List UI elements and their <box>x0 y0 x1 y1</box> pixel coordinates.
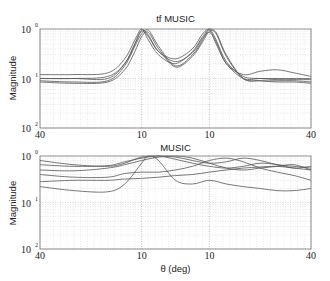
x-tick-label: 10 <box>137 129 147 140</box>
figure: tf MUSIC40101040100101102Magnitude MUSIC… <box>0 0 330 281</box>
x-tick-label: 10 <box>204 129 214 140</box>
x-tick-label: 40 <box>35 129 45 140</box>
y-tick-label: 10 <box>21 151 31 162</box>
y-tick-label: 10 <box>21 123 31 134</box>
y-tick-exponent: 0 <box>35 149 38 155</box>
x-tick-label: 10 <box>137 250 147 261</box>
y-axis-label: Magnitude <box>7 181 18 225</box>
y-tick-label: 10 <box>21 198 31 209</box>
x-tick-label: 40 <box>35 250 45 261</box>
x-axis-label: θ (deg) <box>160 263 190 274</box>
y-tick-exponent: 1 <box>35 196 38 202</box>
y-tick-label: 10 <box>21 244 31 255</box>
x-tick-label: 40 <box>306 129 316 140</box>
y-tick-exponent: 2 <box>35 242 38 248</box>
plot-title: MUSIC <box>160 142 191 153</box>
y-tick-label: 10 <box>21 74 31 85</box>
plot-title: tf MUSIC <box>156 13 195 24</box>
x-tick-label: 10 <box>204 250 214 261</box>
y-tick-label: 10 <box>21 24 31 35</box>
y-tick-exponent: 0 <box>35 22 38 28</box>
y-axis-label: Magnitude <box>7 56 18 100</box>
y-tick-exponent: 2 <box>35 121 38 127</box>
tf-music-plot: tf MUSIC40101040100101102Magnitude <box>7 13 316 140</box>
y-tick-exponent: 1 <box>35 72 38 78</box>
music-plot: MUSIC40101040100101102Magnitudeθ (deg) <box>7 142 316 274</box>
x-tick-label: 40 <box>306 250 316 261</box>
